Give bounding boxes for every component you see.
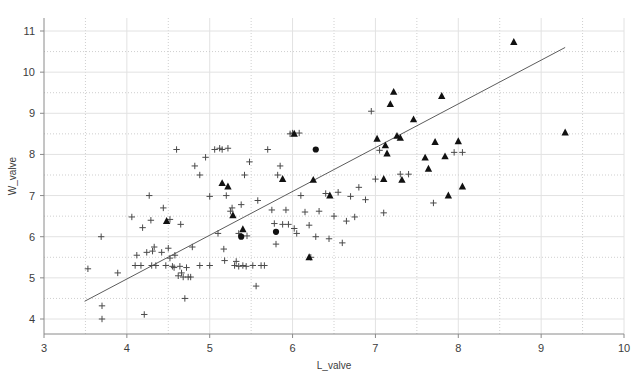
data-point-triangle [382,141,389,148]
data-point-plus [221,246,227,252]
data-point-plus [167,255,173,261]
x-axis-tick-label: 10 [618,342,630,354]
data-point-triangle [561,129,568,136]
data-point-plus [241,172,247,178]
data-point-plus [347,193,353,199]
data-point-triangle [239,225,246,232]
y-axis-tick-label: 8 [29,148,35,160]
data-point-triangle [163,217,170,224]
data-point-plus [269,207,275,213]
y-axis-tick-label: 11 [24,25,35,37]
plot-area: 4567891011345678910L_valveW_valve [0,0,636,375]
data-point-plus [197,172,203,178]
data-point-plus [430,200,436,206]
data-point-plus [261,262,267,268]
data-point-plus [207,193,213,199]
data-point-plus [182,295,188,301]
data-point-triangle [390,88,397,95]
data-point-plus [298,192,304,198]
data-point-circle [273,229,279,235]
data-point-plus [372,176,378,182]
data-point-triangle [398,176,405,183]
data-point-triangle [510,38,517,45]
y-axis-tick-label: 4 [29,313,35,325]
data-point-plus [178,270,184,276]
data-point-triangle [218,179,225,186]
data-point-plus [265,146,271,152]
data-point-plus [148,217,154,223]
data-point-circle [313,146,319,152]
y-axis-tick-label: 5 [29,272,35,284]
data-point-plus [85,266,91,272]
data-point-plus [313,234,319,240]
data-point-plus [132,262,138,268]
data-point-plus [250,262,256,268]
data-point-plus [229,205,235,211]
data-point-plus [129,214,135,220]
y-axis-tick-label: 6 [29,231,35,243]
data-point-plus [352,214,358,220]
y-axis-tick-label: 9 [29,107,35,119]
data-point-plus [316,208,322,214]
data-point-plus [197,262,203,268]
data-point-plus [99,303,105,309]
y-axis-tick-label: 7 [29,190,35,202]
data-point-plus [279,221,285,227]
data-point-plus [231,262,237,268]
data-point-plus [160,205,166,211]
data-point-triangle [410,115,417,122]
data-point-triangle [438,92,445,99]
scatter-chart: 4567891011345678910L_valveW_valve [0,0,636,375]
regression-line [85,47,566,301]
data-point-plus [202,154,208,160]
data-point-plus [165,245,171,251]
x-axis-tick-label: 9 [538,342,544,354]
data-point-plus [246,159,252,165]
data-point-plus [173,146,179,152]
data-point-plus [362,196,368,202]
data-point-triangle [305,253,312,260]
data-point-triangle [279,175,286,182]
data-point-plus [139,224,145,230]
data-point-plus [99,316,105,322]
gridlines [44,18,624,334]
data-point-plus [169,263,175,269]
data-point-plus [253,283,259,289]
data-point-plus [405,171,411,177]
data-point-plus [211,146,217,152]
y-axis-tick-label: 10 [23,66,35,78]
data-point-plus [225,145,231,151]
data-point-plus [223,192,229,198]
data-point-plus [153,262,159,268]
data-point-plus [221,257,227,263]
x-axis-tick-label: 8 [455,342,461,354]
data-point-plus [331,213,337,219]
data-point-plus [146,192,152,198]
data-point-plus [285,221,291,227]
data-point-plus [339,240,345,246]
data-point-plus [273,241,279,247]
data-point-plus [138,262,144,268]
data-point-triangle [455,137,462,144]
data-point-triangle [380,175,387,182]
data-point-plus [302,209,308,215]
data-point-plus [277,163,283,169]
x-axis-tick-label: 5 [207,342,213,354]
axes [40,18,624,338]
data-point-plus [189,244,195,250]
data-point-triangle [387,100,394,107]
data-point-plus [115,270,121,276]
data-point-plus [306,222,312,228]
data-point-triangle [441,152,448,159]
data-point-plus [98,234,104,240]
data-point-plus [215,230,221,236]
data-point-plus [207,262,213,268]
data-point-plus [183,264,189,270]
data-point-plus [158,249,164,255]
data-point-plus [149,248,155,254]
x-axis-tick-label: 3 [41,342,47,354]
data-point-plus [238,201,244,207]
data-point-plus [381,210,387,216]
data-point-triangle [431,138,438,145]
y-axis-title: W_valve [7,156,18,195]
